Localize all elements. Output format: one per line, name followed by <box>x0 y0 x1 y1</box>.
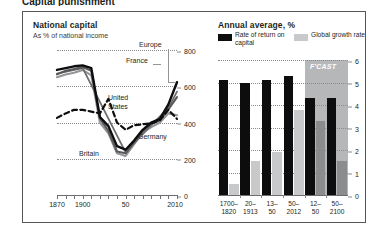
category-label: 50–2012 <box>286 195 301 216</box>
chart-frame: National capital As % of national income… <box>22 11 366 223</box>
category-label: 1700–1820 <box>220 195 238 216</box>
bar-xtick <box>240 195 241 198</box>
bar-xtick <box>261 195 262 198</box>
xtick <box>151 195 152 199</box>
ytick-label-0: 0 <box>177 193 188 200</box>
category-label: 12–50 <box>310 195 321 216</box>
bar-xtick <box>326 195 327 198</box>
xtick <box>134 195 135 199</box>
bar-global-growth <box>229 184 239 195</box>
series-label-france: France <box>126 57 148 64</box>
xtick <box>168 195 169 199</box>
ytick-label-4: 4 <box>348 103 359 110</box>
ytick-label-800: 800 <box>177 48 196 55</box>
line-series-svg <box>57 50 177 195</box>
category-label: 50–2100 <box>330 195 345 216</box>
xtick <box>108 195 109 199</box>
x-tick-row: 1870 1900 50 2010 <box>57 195 177 199</box>
xtick <box>177 195 178 199</box>
series-label-britain: Britain <box>79 150 99 157</box>
series-label-germany: Germany <box>138 133 167 140</box>
bar-global-growth <box>272 152 282 195</box>
ytick-label-6: 6 <box>348 58 359 65</box>
xtick-label-1870: 1870 <box>49 201 65 208</box>
series-label-united-states-line2: States <box>108 103 128 110</box>
right-chart-panel: Annual average, % Rate of return on capi… <box>208 12 365 222</box>
bar-plot-area: F'CAST 6 5 4 3 2 1 <box>218 60 348 195</box>
bar-tick-row <box>218 195 348 198</box>
bar-xtick <box>283 195 284 198</box>
legend-swatch-light <box>294 34 308 41</box>
xtick <box>57 195 58 199</box>
left-chart-panel: National capital As % of national income… <box>23 12 208 222</box>
cropped-headline: Capital punishment <box>22 0 222 6</box>
bar-group-12-50: 12–50 <box>305 60 327 195</box>
leader-france <box>153 64 161 65</box>
ytick-label-200: 200 <box>177 156 196 163</box>
bar-global-growth <box>337 161 347 195</box>
bar-group-50-2100: 50–2100 <box>326 60 348 195</box>
xtick-label-2010: 2010 <box>167 201 183 208</box>
bar-xtick <box>305 195 306 198</box>
bar-group-13-50: 13–50 <box>261 60 283 195</box>
ytick-label-5: 5 <box>348 80 359 87</box>
line-plot-area: 800 600 400 200 0 <box>57 50 177 195</box>
bar-rate-of-return <box>327 98 337 195</box>
bar-global-growth <box>294 110 304 196</box>
legend-label-rate-of-return: Rate of return on capital <box>235 31 293 47</box>
bar-rate-of-return <box>262 80 272 195</box>
ytick-label-1: 1 <box>348 170 359 177</box>
left-chart-subtitle: As % of national income <box>33 32 108 39</box>
bar-rate-of-return <box>305 98 315 195</box>
bar-group-20-1913: 20–1913 <box>240 60 262 195</box>
xtick <box>83 195 84 199</box>
chart-figure: Capital punishment National capital As %… <box>0 0 377 240</box>
xtick <box>66 195 67 199</box>
series-label-europe: Europe <box>139 41 162 48</box>
xtick <box>117 195 118 199</box>
xtick <box>143 195 144 199</box>
ytick-label-3: 3 <box>348 125 359 132</box>
xtick-label-1900: 1900 <box>75 201 91 208</box>
series-label-united-states-line1: United <box>108 94 128 101</box>
xtick <box>74 195 75 199</box>
xtick <box>91 195 92 199</box>
bar-rate-of-return <box>219 80 229 195</box>
ytick-label-600: 600 <box>177 84 196 91</box>
leader-europe-h <box>168 82 175 83</box>
xtick <box>100 195 101 199</box>
legend-label-global-growth: Global growth rate <box>311 31 369 39</box>
xtick-label-1950: 50 <box>122 201 130 208</box>
bar-group-50-2012: 50–2012 <box>283 60 305 195</box>
category-label: 13–50 <box>267 195 278 216</box>
category-label: 20–1913 <box>243 195 258 216</box>
bar-rate-of-return <box>284 76 294 195</box>
ytick-label-400: 400 <box>177 120 196 127</box>
legend-swatch-dark <box>218 34 232 41</box>
bar-rate-of-return <box>240 83 250 196</box>
right-chart-title: Annual average, % <box>218 20 295 30</box>
bar-global-growth <box>316 121 326 195</box>
leader-europe <box>168 49 169 82</box>
left-chart-title: National capital <box>33 20 97 30</box>
bar-global-growth <box>251 161 261 195</box>
bar-group-1700-1820: 1700–1820 <box>218 60 240 195</box>
ytick-label-2: 2 <box>348 148 359 155</box>
ytick-label-0: 0 <box>348 193 359 200</box>
xtick <box>126 195 127 199</box>
xtick <box>160 195 161 199</box>
